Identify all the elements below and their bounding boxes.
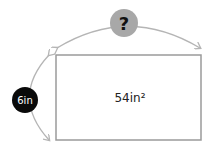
- height-label: 6in: [12, 87, 38, 113]
- diagram-canvas: [0, 0, 213, 154]
- width-unknown-label: ?: [110, 9, 138, 37]
- area-label: 54in²: [100, 88, 160, 108]
